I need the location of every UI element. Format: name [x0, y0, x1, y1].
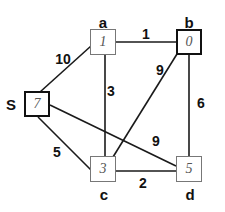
edge-weight-b-d: 6 — [197, 96, 205, 110]
edge-S-c — [38, 117, 91, 170]
edge-weight-S-c: 5 — [53, 145, 61, 159]
node-label-S: S — [6, 97, 16, 112]
node-value-b: 0 — [186, 34, 193, 50]
edge-b-c — [113, 54, 177, 157]
node-label-c: c — [100, 187, 108, 202]
edge-weight-a-b: 1 — [142, 27, 150, 41]
edge-weight-S-a: 10 — [55, 52, 71, 66]
edge-weight-c-d: 2 — [139, 176, 147, 190]
node-c: 3 — [90, 156, 116, 182]
edge-weight-S-d: 9 — [152, 134, 160, 148]
node-S: 7 — [24, 91, 50, 117]
node-label-d: d — [185, 187, 194, 202]
node-value-d: 5 — [186, 161, 193, 177]
node-a: 1 — [90, 29, 116, 55]
edge-weight-a-c: 3 — [107, 84, 115, 98]
node-value-c: 3 — [100, 161, 107, 177]
node-value-S: 7 — [34, 96, 41, 112]
node-value-a: 1 — [100, 34, 107, 50]
edge-weight-b-c: 9 — [156, 63, 164, 77]
node-label-b: b — [184, 15, 193, 30]
node-d: 5 — [176, 156, 202, 182]
node-b: 0 — [176, 29, 202, 55]
node-label-a: a — [99, 15, 107, 30]
